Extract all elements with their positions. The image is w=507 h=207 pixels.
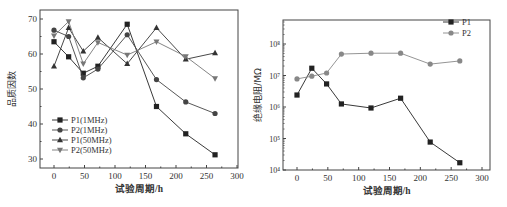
y-tick-label: 10⁸	[269, 40, 280, 49]
data-point-marker	[368, 105, 373, 110]
x-tick-label: 50	[323, 173, 333, 183]
y-tick-label: 70	[28, 14, 38, 24]
x-tick-label: 300	[230, 171, 244, 181]
legend-label: P1(50MHz)	[71, 135, 112, 145]
data-point-marker	[66, 34, 71, 39]
insulation-resistance-chart: 05010015020025030010⁴10⁵10⁶10⁷10⁸试验周期/h绝…	[252, 17, 490, 196]
data-point-marker	[51, 63, 57, 68]
legend-label: P1	[462, 17, 471, 27]
legend-marker	[57, 127, 62, 132]
data-point-marker	[428, 139, 433, 144]
y-tick-label: 10⁴	[269, 166, 280, 175]
data-point-marker	[294, 76, 299, 81]
data-point-marker	[398, 96, 403, 101]
data-point-marker	[125, 32, 130, 37]
data-point-marker	[51, 39, 56, 44]
data-point-marker	[212, 50, 218, 55]
data-point-marker	[309, 66, 314, 71]
data-point-marker	[294, 92, 299, 97]
plot-frame	[283, 20, 490, 170]
data-point-marker	[183, 131, 188, 136]
legend-label: P2(50MHz)	[71, 145, 112, 155]
x-tick-label: 150	[139, 171, 153, 181]
y-tick-label: 10⁶	[269, 103, 280, 112]
y-tick-label: 10⁵	[269, 135, 280, 144]
legend-marker	[57, 117, 62, 122]
data-point-marker	[153, 25, 159, 30]
series-p2-50mhz-	[51, 19, 218, 81]
data-point-marker	[154, 104, 159, 109]
data-point-marker	[457, 160, 462, 165]
data-point-marker	[212, 76, 218, 81]
y-tick-label: 50	[28, 84, 38, 94]
data-point-marker	[66, 54, 71, 59]
x-tick-label: 250	[200, 171, 214, 181]
x-tick-label: 0	[295, 173, 300, 183]
x-tick-label: 200	[414, 173, 428, 183]
legend-marker	[57, 148, 63, 153]
x-tick-label: 100	[108, 171, 122, 181]
data-point-marker	[95, 34, 101, 39]
data-point-marker	[212, 111, 217, 116]
data-point-marker	[324, 81, 329, 86]
data-point-marker	[51, 34, 57, 39]
data-point-marker	[154, 77, 159, 82]
y-tick-label: 40	[28, 119, 38, 129]
x-tick-label: 200	[169, 171, 183, 181]
x-tick-label: 100	[352, 173, 366, 183]
y-tick-label: 60	[28, 49, 38, 59]
figure: 0501001502002503003040506070试验周期/h品质因数P1…	[0, 0, 507, 207]
data-point-marker	[212, 152, 217, 157]
x-axis-label: 试验周期/h	[363, 185, 412, 196]
y-tick-label: 10⁷	[269, 72, 280, 81]
x-tick-label: 250	[444, 173, 458, 183]
legend-marker	[448, 30, 453, 35]
x-tick-label: 300	[475, 173, 489, 183]
data-point-marker	[339, 51, 344, 56]
x-tick-label: 50	[80, 171, 90, 181]
data-point-marker	[398, 51, 403, 56]
data-point-marker	[95, 66, 100, 71]
legend-marker	[57, 137, 63, 142]
y-tick-label: 30	[28, 154, 38, 164]
legend-label: P2	[462, 28, 471, 38]
data-point-marker	[368, 51, 373, 56]
data-point-marker	[124, 53, 130, 58]
data-point-marker	[81, 75, 86, 80]
series-p1	[294, 66, 462, 166]
legend: P1(1MHz)P2(1MHz)P1(50MHz)P2(50MHz)	[52, 115, 112, 155]
plot-frame	[40, 10, 238, 168]
data-point-marker	[309, 74, 314, 79]
data-point-marker	[428, 62, 433, 67]
data-point-marker	[457, 58, 462, 63]
data-point-marker	[183, 99, 188, 104]
y-axis-label: 品质因数	[6, 71, 17, 107]
legend-label: P2(1MHz)	[71, 125, 108, 135]
legend-marker	[448, 19, 453, 24]
y-axis-label: 绝缘电阻/MΩ	[252, 68, 263, 122]
x-tick-label: 0	[52, 171, 57, 181]
x-axis-label: 试验周期/h	[115, 183, 164, 194]
data-point-marker	[339, 101, 344, 106]
data-point-marker	[324, 70, 329, 75]
x-tick-label: 150	[383, 173, 397, 183]
data-point-marker	[51, 28, 56, 33]
data-point-marker	[125, 22, 130, 27]
legend-label: P1(1MHz)	[71, 115, 108, 125]
data-point-marker	[80, 62, 86, 67]
quality-factor-chart: 0501001502002503003040506070试验周期/h品质因数P1…	[6, 10, 244, 194]
